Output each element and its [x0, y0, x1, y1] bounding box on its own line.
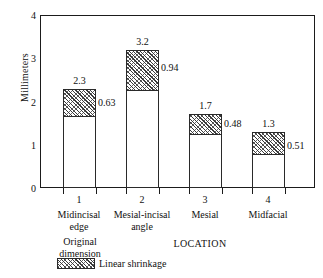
x-axis-title: LOCATION [145, 238, 255, 249]
bar-1 [63, 89, 96, 188]
bar-2-original-segment [126, 90, 159, 188]
shrinkage-bar-chart: Millimeters 4 3 2 1 0 2.3 0.63 3.2 0.94 … [0, 0, 323, 278]
y-tick-label-1: 1 [14, 141, 36, 151]
x-category-label-2-line2: angle [96, 221, 188, 233]
x-category-label-4: Midfacial [222, 209, 314, 221]
x-tick-mark-g [252, 188, 253, 194]
x-tick-mark-a [63, 188, 64, 194]
x-category-label-4-line1: Midfacial [222, 209, 314, 221]
x-tick-mark-b [96, 188, 97, 194]
bar-2-shrinkage-segment [126, 50, 159, 91]
x-tick-number-4: 4 [248, 195, 288, 205]
bar-2 [126, 50, 159, 188]
y-tick-label-0: 0 [14, 184, 36, 194]
y-tick-label-3: 3 [14, 54, 36, 64]
x-tick-mark-f [222, 188, 223, 194]
legend-shrinkage-label: Linear shrinkage [99, 259, 166, 269]
x-tick-mark-h [285, 188, 286, 194]
bar-3-original-segment [189, 134, 222, 188]
x-tick-number-2: 2 [122, 195, 162, 205]
y-axis-title: Millimeters [19, 18, 30, 138]
bar-4-shrinkage-segment [252, 132, 285, 155]
bar-2-shrinkage-label: 0.94 [161, 63, 179, 73]
bar-3 [189, 114, 222, 188]
legend-shrinkage-swatch-icon [57, 258, 95, 269]
bar-1-shrinkage-segment [63, 89, 96, 117]
bar-3-shrinkage-label: 0.48 [224, 119, 242, 129]
bar-1-total-label: 2.3 [59, 76, 100, 86]
bar-2-total-label: 3.2 [122, 37, 163, 47]
y-tick-label-2: 2 [14, 98, 36, 108]
bar-4-original-segment [252, 154, 285, 188]
legend-original-line1: Original [30, 236, 130, 248]
bar-3-shrinkage-segment [189, 114, 222, 135]
y-tick-label-4: 4 [14, 11, 36, 21]
legend-linear-shrinkage: Linear shrinkage [57, 258, 166, 269]
legend-original-dimension: Original dimension [30, 236, 130, 259]
bar-4-total-label: 1.3 [248, 119, 289, 129]
bar-4-shrinkage-label: 0.51 [287, 141, 305, 151]
x-tick-number-3: 3 [185, 195, 225, 205]
bar-4 [252, 132, 285, 188]
x-tick-mark-e [189, 188, 190, 194]
x-tick-mark-c [126, 188, 127, 194]
bar-1-original-segment [63, 116, 96, 188]
x-tick-number-1: 1 [59, 195, 99, 205]
x-tick-mark-d [159, 188, 160, 194]
bar-1-shrinkage-label: 0.63 [98, 98, 116, 108]
bar-3-total-label: 1.7 [185, 101, 226, 111]
